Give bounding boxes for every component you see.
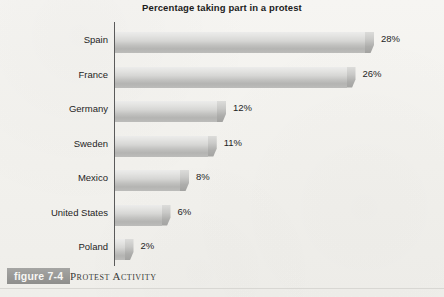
bar-value-label: 12% [233, 102, 252, 113]
bar-value-label: 6% [178, 206, 192, 217]
plot-area: Spain28%France26%Germany12%Sweden11%Mexi… [0, 21, 444, 266]
chart-figure: Percentage taking part in a protest Spai… [0, 0, 444, 266]
category-label: Germany [0, 103, 108, 114]
bar-end-bevel [365, 32, 374, 53]
bar-end-bevel [208, 136, 217, 157]
bar-end-bevel [180, 170, 189, 191]
bar-row: France26% [0, 58, 444, 96]
bar-row: United States6% [0, 196, 444, 234]
bar-row: Mexico8% [0, 161, 444, 199]
figure-caption-text: Protest Activity [70, 269, 156, 284]
bar-sweden [115, 136, 217, 157]
category-label: Spain [0, 34, 108, 45]
bar-row: Sweden11% [0, 127, 444, 165]
bar-spain [115, 32, 374, 53]
bar-value-label: 2% [141, 240, 155, 251]
bar-row: Germany12% [0, 92, 444, 130]
bar-end-bevel [347, 67, 356, 88]
category-label: United States [0, 207, 108, 218]
bar-poland [115, 239, 134, 260]
category-label: France [0, 69, 108, 80]
category-label: Poland [0, 241, 108, 252]
bar-mexico [115, 170, 189, 191]
bar-value-label: 26% [363, 68, 382, 79]
bar-united-states [115, 205, 171, 226]
category-label: Sweden [0, 138, 108, 149]
caption-divider [0, 288, 444, 289]
bar-end-bevel [162, 205, 171, 226]
bar-end-bevel [125, 239, 134, 260]
bar-body [115, 32, 365, 53]
bar-row: Poland2% [0, 230, 444, 268]
bar-value-label: 8% [196, 171, 210, 182]
figure-caption: figure 7-4 Protest Activity [0, 268, 444, 286]
bar-body [115, 205, 162, 226]
bar-end-bevel [217, 101, 226, 122]
category-label: Mexico [0, 172, 108, 183]
chart-title: Percentage taking part in a protest [0, 2, 444, 13]
bar-body [115, 67, 347, 88]
figure-number-tag: figure 7-4 [7, 268, 70, 284]
bar-body [115, 170, 180, 191]
bar-body [115, 101, 217, 122]
bar-germany [115, 101, 226, 122]
bar-body [115, 239, 125, 260]
bar-body [115, 136, 208, 157]
bar-value-label: 28% [381, 33, 400, 44]
bar-row: Spain28% [0, 23, 444, 61]
bar-france [115, 67, 356, 88]
bar-value-label: 11% [224, 137, 242, 148]
